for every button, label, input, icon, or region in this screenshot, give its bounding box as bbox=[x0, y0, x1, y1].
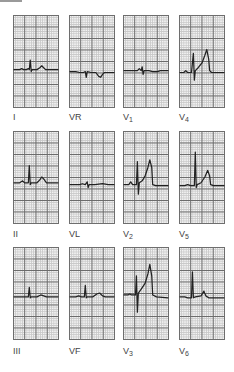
ecg-trace-lead-V1 bbox=[124, 16, 168, 107]
ecg-trace-lead-I bbox=[14, 16, 58, 107]
ecg-trace-lead-V5 bbox=[180, 132, 224, 223]
top-rule bbox=[0, 0, 22, 2]
ecg-panel-lead-aVR bbox=[69, 15, 115, 108]
ecg-panel-lead-V1 bbox=[123, 15, 169, 108]
lead-label-aVR: VR bbox=[69, 112, 82, 125]
ecg-panel-lead-I bbox=[13, 15, 59, 108]
ecg-trace-lead-V2 bbox=[124, 132, 168, 223]
lead-label-aVF: VF bbox=[69, 346, 81, 359]
lead-label-V3: V3 bbox=[123, 346, 133, 359]
ecg-panel-lead-II bbox=[13, 131, 59, 224]
ecg-trace-lead-aVF bbox=[70, 248, 114, 339]
ecg-panel-lead-III bbox=[13, 247, 59, 340]
ecg-panel-lead-V4 bbox=[179, 15, 225, 108]
lead-label-V2: V2 bbox=[123, 229, 133, 242]
lead-label-V1: V1 bbox=[123, 112, 133, 125]
ecg-panel-lead-V5 bbox=[179, 131, 225, 224]
ecg-panel-lead-V6 bbox=[179, 247, 225, 340]
ecg-trace-lead-aVL bbox=[70, 132, 114, 223]
ecg-panel-lead-aVL bbox=[69, 131, 115, 224]
ecg-panel-lead-V2 bbox=[123, 131, 169, 224]
ecg-trace-lead-V6 bbox=[180, 248, 224, 339]
lead-label-II: II bbox=[13, 229, 18, 242]
ecg-panel-lead-aVF bbox=[69, 247, 115, 340]
ecg-trace-lead-V3 bbox=[124, 248, 168, 339]
lead-label-III: III bbox=[13, 346, 21, 359]
lead-label-V5: V5 bbox=[179, 229, 189, 242]
lead-label-aVL: VL bbox=[69, 229, 80, 242]
lead-label-V6: V6 bbox=[179, 346, 189, 359]
ecg-trace-lead-II bbox=[14, 132, 58, 223]
ecg-trace-lead-III bbox=[14, 248, 58, 339]
ecg-panel-lead-V3 bbox=[123, 247, 169, 340]
lead-label-V4: V4 bbox=[179, 112, 189, 125]
ecg-trace-lead-aVR bbox=[70, 16, 114, 107]
lead-label-I: I bbox=[13, 112, 16, 125]
ecg-trace-lead-V4 bbox=[180, 16, 224, 107]
